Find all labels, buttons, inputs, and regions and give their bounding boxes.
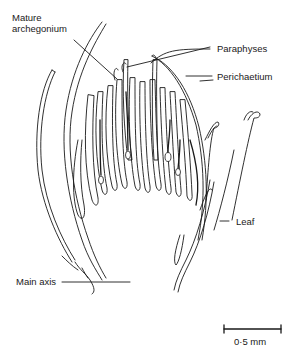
archegonia [99,63,181,184]
label-main-axis: Main axis [16,276,56,287]
perichaetial-leaves-left [37,22,106,280]
leader-lines [62,40,229,282]
scale-bar-label: 0·5 mm [234,336,266,347]
main-axis [62,256,94,294]
label-mature-archegonium: Mature archegonium [12,12,67,34]
label-mature-archegonium-line2: archegonium [12,23,67,34]
label-perichaetium: Perichaetium [217,71,272,82]
leader-perichaetium-2 [200,80,213,81]
leader-paraphyses-1 [127,47,210,67]
label-mature-archegonium-line1: Mature [12,12,67,23]
scale-bar [224,325,281,333]
label-paraphyses: Paraphyses [217,43,267,54]
leaf [174,180,214,292]
label-leaf: Leaf [236,216,255,227]
moss-archegonial-head-diagram: Mature archegonium Paraphyses Perichaeti… [0,0,293,357]
